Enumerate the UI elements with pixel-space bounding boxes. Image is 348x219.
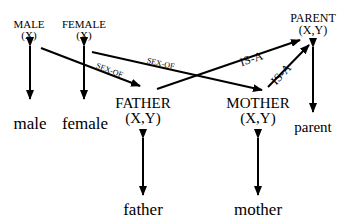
node-female-args: (X) [62, 30, 106, 41]
word-female: female [62, 115, 108, 132]
node-female: FEMALE (X) [62, 19, 106, 41]
node-mother-args: (X,Y) [226, 111, 289, 126]
node-father-name: FATHER [115, 96, 171, 111]
node-mother-name: MOTHER [226, 96, 289, 111]
node-male: MALE (X) [13, 19, 44, 41]
node-male-args: (X) [13, 30, 44, 41]
node-parent-args: (X,Y) [290, 24, 336, 36]
word-parent: parent [294, 120, 331, 135]
word-father: father [123, 201, 163, 218]
node-parent: PARENT (X,Y) [290, 12, 336, 36]
node-mother: MOTHER (X,Y) [226, 96, 289, 126]
node-father-args: (X,Y) [115, 111, 171, 126]
word-mother: mother [234, 201, 282, 218]
word-male: male [13, 115, 46, 132]
sex-of-male-father-arrow [41, 48, 140, 86]
node-father: FATHER (X,Y) [115, 96, 171, 126]
